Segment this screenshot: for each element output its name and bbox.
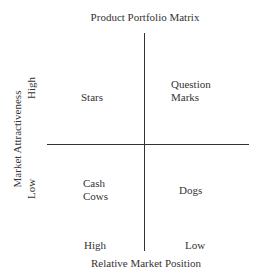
quadrant-cash-cows-line1: Cash (83, 177, 108, 190)
diagram-title: Product Portfolio Matrix (0, 11, 257, 23)
x-axis-tick-high: High (84, 239, 106, 251)
x-axis-label: Relative Market Position (0, 257, 257, 269)
quadrant-dogs: Dogs (179, 184, 202, 197)
y-axis-tick-low: Low (25, 176, 37, 202)
x-axis-tick-low: Low (185, 239, 205, 251)
y-axis-label: Market Attractiveness (11, 79, 23, 199)
quadrant-stars: Stars (81, 91, 103, 104)
vertical-divider (144, 33, 145, 251)
quadrant-question-marks: Question Marks (171, 78, 211, 104)
quadrant-question-marks-line1: Question (171, 78, 211, 91)
quadrant-cash-cows: Cash Cows (83, 177, 108, 203)
horizontal-divider (47, 144, 249, 145)
quadrant-cash-cows-line2: Cows (83, 190, 108, 203)
y-axis-tick-high: High (25, 74, 37, 102)
quadrant-question-marks-line2: Marks (171, 91, 211, 104)
